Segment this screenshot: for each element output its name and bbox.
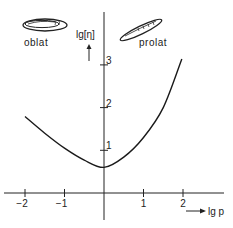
y-tick-label: 3 — [106, 55, 112, 66]
y-ticks: 123 — [100, 55, 112, 151]
prolate-label: prolat — [139, 37, 167, 48]
x-tick-label: −1 — [56, 198, 68, 209]
x-tick-label: 1 — [141, 198, 147, 209]
x-arrow-icon — [186, 209, 206, 214]
oblate-ellipsoid-icon — [23, 19, 67, 31]
chart: −2−112 123 lg[η] lg p oblat prolat — [0, 0, 233, 228]
x-tick-label: 2 — [180, 198, 186, 209]
oblate-label: oblat — [24, 37, 48, 48]
x-tick-label: −2 — [16, 198, 28, 209]
y-tick-label: 1 — [106, 140, 112, 151]
y-arrow-icon — [87, 44, 92, 61]
x-axis-label: lg p — [208, 206, 225, 217]
y-axis-label: lg[η] — [76, 29, 95, 40]
y-tick-label: 2 — [106, 98, 112, 109]
x-ticks: −2−112 — [16, 189, 186, 209]
data-curve — [25, 59, 182, 167]
